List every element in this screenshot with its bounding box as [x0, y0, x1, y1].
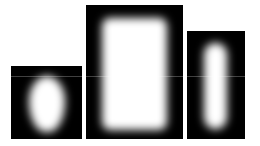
- blob-shape: [29, 76, 65, 132]
- capsule-panel: [187, 31, 245, 139]
- capsule-shape: [204, 43, 227, 129]
- rectangle-panel: [86, 5, 183, 139]
- scan-line: [0, 76, 260, 77]
- rectangle-shape: [102, 18, 167, 130]
